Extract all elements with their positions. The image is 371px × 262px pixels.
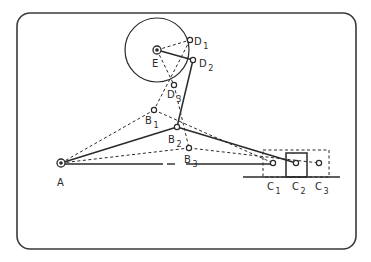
link-e-d1 [157, 40, 190, 50]
joint-b3 [186, 145, 191, 150]
joint-b1 [151, 107, 156, 112]
label-e: E [152, 58, 158, 69]
label-b3: B3 [184, 154, 197, 169]
joint-c2 [293, 160, 298, 165]
label-d3: D3 [167, 89, 181, 104]
label-d1: D1 [194, 36, 208, 51]
joint-c1 [270, 160, 275, 165]
label-a: A [57, 177, 64, 188]
link-d2-b2 [177, 60, 193, 127]
label-b2: B2 [168, 134, 181, 149]
joint-d2 [190, 57, 195, 62]
ground-layer [61, 164, 340, 177]
pivot-center-a [59, 161, 63, 165]
joints-layer [57, 37, 322, 167]
link-e-d3 [157, 50, 174, 85]
link-b2-c2 [177, 127, 296, 163]
linkage-diagram: AED1D2D3B1B2B3C1C2C3 [0, 0, 371, 262]
label-b1: B1 [145, 115, 158, 130]
diagram-frame [17, 13, 356, 249]
link-a-b1 [61, 110, 154, 163]
pivot-center-e [155, 48, 159, 52]
label-c1: C1 [267, 181, 281, 196]
joint-c3 [316, 160, 321, 165]
diagram-canvas: AED1D2D3B1B2B3C1C2C3 [0, 0, 371, 262]
links-layer [61, 40, 319, 163]
link-a-b2 [61, 127, 177, 163]
joint-b2 [174, 124, 179, 129]
label-c3: C3 [315, 181, 329, 196]
label-c2: C2 [292, 181, 306, 196]
link-a-b3 [61, 148, 189, 163]
joint-d3 [171, 82, 176, 87]
joint-d1 [187, 37, 192, 42]
label-d2: D2 [199, 58, 213, 73]
